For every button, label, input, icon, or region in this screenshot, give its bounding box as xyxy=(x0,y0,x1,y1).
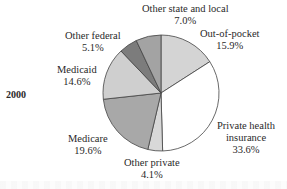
label-medicare: Medicare 19.6% xyxy=(68,133,108,157)
label-other-federal: Other federal 5.1% xyxy=(65,30,121,54)
label-private-health-insurance: Private health insurance 33.6% xyxy=(217,120,275,156)
year-label: 2000 xyxy=(6,89,26,100)
label-out-of-pocket: Out-of-pocket 15.9% xyxy=(200,28,259,52)
faint-caption-bleed xyxy=(0,181,287,189)
label-other-state-local: Other state and local 7.0% xyxy=(142,3,229,27)
label-medicaid: Medicaid 14.6% xyxy=(57,64,97,88)
label-other-private: Other private 4.1% xyxy=(124,157,180,181)
